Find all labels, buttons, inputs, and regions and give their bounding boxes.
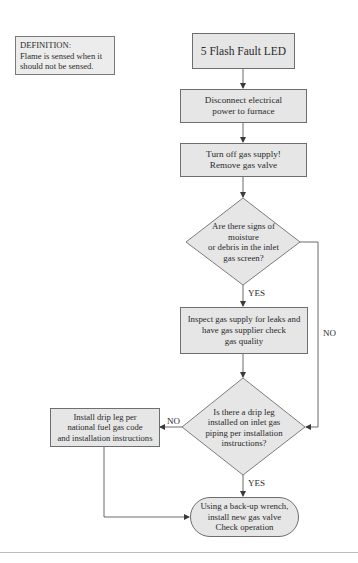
step-disconnect: Disconnect electrical power to furnace bbox=[180, 89, 307, 123]
step-inspect-gas: Inspect gas supply for leaks and have ga… bbox=[180, 307, 308, 354]
step-install-drip-leg-text: Install drip leg per national fuel gas c… bbox=[58, 412, 153, 444]
start-node-text: 5 Flash Fault LED bbox=[201, 45, 286, 58]
step-inspect-gas-text: Inspect gas supply for leaks and have ga… bbox=[188, 314, 301, 346]
step-install-drip-leg: Install drip leg per national fuel gas c… bbox=[50, 408, 160, 447]
decision-dripleg-no-label: NO bbox=[167, 416, 180, 426]
definition-title: DEFINITION: bbox=[20, 40, 110, 51]
start-node: 5 Flash Fault LED bbox=[192, 33, 295, 69]
end-node-text: Using a back-up wrench, install new gas … bbox=[201, 501, 289, 533]
step-turn-off-gas-text: Turn off gas supply! Remove gas valve bbox=[206, 149, 281, 171]
decision-moisture-no-label: NO bbox=[323, 328, 336, 338]
flowchart-connectors bbox=[0, 0, 358, 563]
decision-dripleg: Is there a drip leg installed on inlet g… bbox=[195, 400, 293, 455]
decision-dripleg-yes-label: YES bbox=[248, 478, 265, 488]
decision-moisture-yes-label: YES bbox=[248, 288, 265, 298]
decision-dripleg-text: Is there a drip leg installed on inlet g… bbox=[205, 407, 282, 449]
edge-install-end bbox=[104, 446, 189, 517]
definition-text: Flame is sensed when it should not be se… bbox=[20, 51, 110, 72]
decision-moisture: Are there signs of moisture or debris in… bbox=[196, 212, 291, 272]
definition-box: DEFINITION: Flame is sensed when it shou… bbox=[15, 36, 115, 75]
end-node: Using a back-up wrench, install new gas … bbox=[190, 497, 299, 537]
step-turn-off-gas: Turn off gas supply! Remove gas valve bbox=[180, 143, 307, 177]
page-divider bbox=[0, 552, 358, 553]
decision-moisture-text: Are there signs of moisture or debris in… bbox=[208, 221, 279, 263]
step-disconnect-text: Disconnect electrical power to furnace bbox=[205, 95, 282, 117]
